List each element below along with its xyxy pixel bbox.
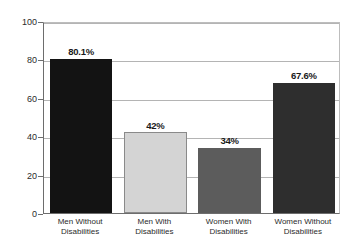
bar: 42% [124,132,187,213]
bar-value-label: 67.6% [291,70,317,81]
bar-value-label: 34% [220,135,238,146]
x-axis-category-label: Men Without Disabilities [43,217,117,237]
y-axis-tick-mark [38,214,43,215]
bar: 80.1% [50,59,113,213]
x-axis-category-label: Men With Disabilities [117,217,191,237]
plot-area: 80.1%42%34%67.6% [43,22,340,214]
y-axis-tick-label: 100 [7,18,37,27]
bar-value-label: 80.1% [68,46,94,57]
gridline [44,23,339,24]
y-axis-tick-label: 60 [7,95,37,104]
y-axis-tick-label: 20 [7,172,37,181]
bar: 67.6% [273,83,336,213]
x-axis-category-label: Women With Disabilities [192,217,266,237]
y-axis-tick-label: 0 [7,210,37,219]
x-axis-category-label: Women Without Disabilities [266,217,340,237]
bar-value-label: 42% [146,120,164,131]
bar-chart: 020406080100 80.1%42%34%67.6% Men Withou… [0,0,355,247]
y-axis-tick-label: 40 [7,133,37,142]
bar: 34% [198,148,261,213]
y-axis-tick-label: 80 [7,56,37,65]
